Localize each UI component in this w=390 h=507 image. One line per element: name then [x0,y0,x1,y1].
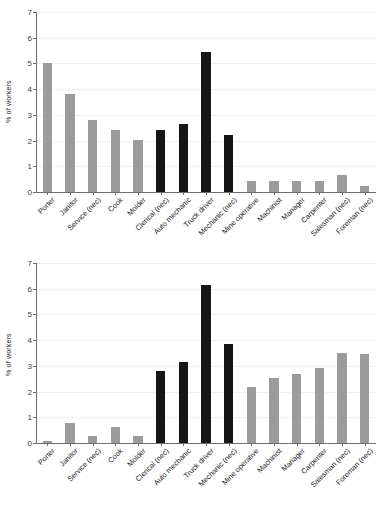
gridline [36,263,376,264]
x-tick-mark [319,443,320,446]
bar [292,374,302,443]
x-tick-label: Mine operative [192,447,261,507]
x-tick-mark [93,443,94,446]
bar [65,423,75,443]
bar [224,344,234,443]
x-tick-mark [47,192,48,195]
y-axis-line [36,12,37,192]
y-tick-label: 2 [28,387,32,396]
x-tick-mark [70,443,71,446]
x-tick-label: Mechanic (nec) [169,447,238,507]
chart-panel-top: % of workers 01234567 PorterJanitorServi… [0,0,390,254]
bar [315,368,325,443]
bar [111,130,121,192]
x-tick-mark [319,192,320,195]
y-tick-label: 1 [28,413,32,422]
chart-panel-bottom: % of workers 01234567 PorterJanitorServi… [0,253,390,507]
bar [315,181,325,192]
y-tick-label: 0 [28,439,32,448]
x-tick-mark [47,443,48,446]
plot-wrapper-bottom: % of workers 01234567 PorterJanitorServi… [0,253,390,507]
y-tick-label: 3 [28,110,32,119]
y-tick-label: 7 [28,259,32,268]
x-tick-label: Machinist [214,447,283,507]
bar [269,378,279,443]
gridline [36,12,376,13]
y-tick-label: 0 [28,188,32,197]
x-tick-mark [115,192,116,195]
bar [133,436,143,443]
x-tick-mark [183,443,184,446]
y-tick-label: 3 [28,361,32,370]
y-tick-label: 7 [28,8,32,17]
x-tick-mark [229,443,230,446]
bar [201,285,211,443]
x-tick-mark [251,443,252,446]
figure-page: % of workers 01234567 PorterJanitorServi… [0,0,390,507]
x-tick-mark [251,192,252,195]
x-tick-mark [274,192,275,195]
x-tick-mark [206,192,207,195]
y-axis-title-top: % of workers [2,62,16,142]
bar [292,181,302,192]
x-tick-label: Foreman (nec) [305,447,374,507]
plot-area-bottom: 01234567 [36,263,376,443]
bar [156,130,166,192]
x-tick-mark [115,443,116,446]
bar [43,63,53,192]
x-tick-label: Carpenter [260,447,329,507]
x-tick-label: Truck driver [146,447,215,507]
x-tick-mark [138,443,139,446]
y-axis-line [36,263,37,443]
gridline [36,38,376,39]
bar [201,52,211,192]
x-tick-label: Clerical (nec) [101,447,170,507]
y-tick-label: 4 [28,85,32,94]
x-tick-label: Porter [0,447,57,507]
bar [88,120,98,192]
x-tick-mark [70,192,71,195]
bar [179,124,189,192]
bar [247,181,257,192]
x-tick-mark [365,443,366,446]
bar [224,135,234,192]
x-tick-mark [274,443,275,446]
y-axis-title-bottom: % of workers [2,315,16,395]
y-tick-label: 1 [28,162,32,171]
bar [247,387,257,443]
x-tick-label: Manager [237,447,306,507]
x-tick-mark [206,443,207,446]
x-tick-mark [297,192,298,195]
bar [43,441,53,443]
x-tick-mark [229,192,230,195]
x-tick-mark [342,443,343,446]
plot-area-top: 01234567 [36,12,376,192]
x-tick-label: Service (nec) [33,447,102,507]
bar [111,427,121,443]
bar [360,354,370,443]
x-tick-mark [93,192,94,195]
bar [337,175,347,192]
x-tick-mark [183,192,184,195]
bar [133,140,143,192]
y-tick-label: 6 [28,284,32,293]
x-tick-label: Molder [78,447,147,507]
x-tick-label: Auto mechanic [124,447,193,507]
x-tick-label: Janitor [10,447,79,507]
x-tick-mark [138,192,139,195]
x-tick-mark [161,192,162,195]
bar [65,94,75,192]
x-tick-label: Salesman (nec) [282,447,351,507]
x-tick-mark [297,443,298,446]
y-tick-label: 6 [28,33,32,42]
y-tick-label: 5 [28,310,32,319]
bar [337,353,347,443]
x-tick-mark [161,443,162,446]
bar [156,371,166,443]
x-tick-mark [342,192,343,195]
bar [360,186,370,192]
y-tick-label: 5 [28,59,32,68]
x-tick-label: Cook [56,447,125,507]
y-tick-label: 4 [28,336,32,345]
bar [88,436,98,443]
